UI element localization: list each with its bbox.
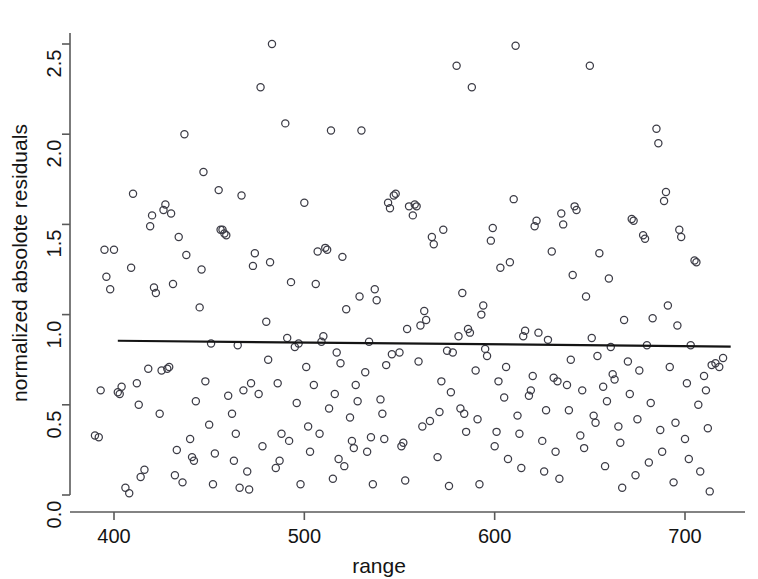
- regression-line: [118, 341, 731, 347]
- scatter-plot-figure: 400500600700 0.00.51.01.52.02.5 range no…: [0, 0, 758, 579]
- x-tick-label: 700: [664, 525, 706, 548]
- x-axis-title: range: [0, 554, 758, 578]
- y-tick-label: 0.0: [43, 495, 66, 535]
- y-tick-label: 2.0: [43, 134, 66, 174]
- y-axis-title: normalized absolote residuals: [8, 113, 32, 413]
- y-tick-label: 1.5: [43, 224, 66, 264]
- y-tick-label: 1.0: [43, 314, 66, 354]
- x-tick-label: 500: [283, 525, 325, 548]
- x-tick-label: 600: [474, 525, 516, 548]
- x-tick-label: 400: [93, 525, 135, 548]
- y-tick-label: 0.5: [43, 404, 66, 444]
- plot-canvas: [0, 0, 758, 579]
- tick-marks: [62, 44, 685, 520]
- data-point-group: [91, 40, 726, 496]
- axis-lines: [70, 33, 745, 512]
- y-tick-label: 2.5: [43, 44, 66, 84]
